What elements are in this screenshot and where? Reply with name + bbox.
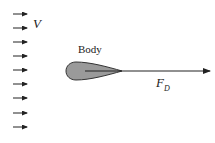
force-symbol: F xyxy=(156,75,164,90)
velocity-label: V xyxy=(33,16,41,32)
drag-force-diagram: V Body FD xyxy=(0,0,215,143)
flow-arrows xyxy=(13,14,27,127)
force-subscript: D xyxy=(164,84,170,93)
body-label: Body xyxy=(78,43,102,55)
drag-force-label: FD xyxy=(156,75,170,93)
